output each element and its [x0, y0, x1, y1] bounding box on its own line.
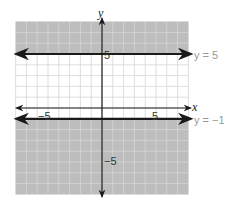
x-axis-label: x — [191, 100, 198, 114]
inequality-graph: y x 5 −5 −5 5 y = 5 y = −1 — [0, 0, 235, 210]
y-tick-neg5: −5 — [104, 155, 117, 167]
equation-label-yneg1: y = −1 — [194, 114, 225, 126]
x-tick-5: 5 — [152, 110, 158, 122]
y-axis-label: y — [97, 6, 104, 20]
equation-label-y5: y = 5 — [194, 49, 218, 61]
y-tick-5: 5 — [104, 49, 110, 61]
x-tick-neg5: −5 — [38, 110, 51, 122]
